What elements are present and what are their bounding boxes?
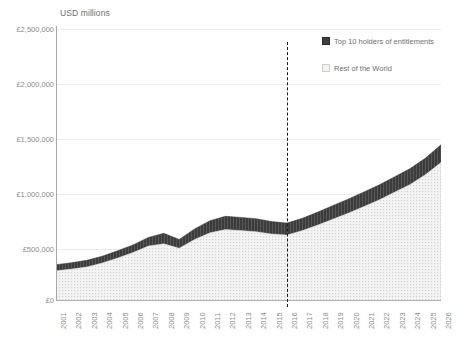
legend: Top 10 holders of entitlements Rest of t… <box>322 36 454 90</box>
x-tick-label: 2011 <box>213 313 222 329</box>
x-tick-label: 2005 <box>121 312 130 329</box>
x-tick-label: 2024 <box>413 312 422 329</box>
x-tick-label: 2019 <box>336 312 345 329</box>
x-tick-label: 2014 <box>259 312 268 329</box>
legend-item-rest-of-world: Rest of the World <box>322 63 454 73</box>
x-tick-label: 2010 <box>198 312 207 329</box>
legend-swatch-dark-icon <box>322 37 330 45</box>
x-tick-label: 2015 <box>275 312 284 329</box>
legend-swatch-light-icon <box>322 64 330 72</box>
x-tick-label: 2017 <box>305 312 314 329</box>
x-tick-label: 2022 <box>382 312 391 329</box>
x-tick-label: 2002 <box>74 312 83 329</box>
x-tick-label: 2009 <box>182 312 191 329</box>
x-tick-label: 2020 <box>352 312 361 329</box>
legend-label: Top 10 holders of entitlements <box>334 37 434 46</box>
x-tick-label: 2012 <box>228 312 237 329</box>
x-tick-label: 2026 <box>444 312 453 329</box>
legend-label: Rest of the World <box>334 64 392 73</box>
x-tick-label: 2008 <box>167 312 176 329</box>
x-tick-label: 2007 <box>151 312 160 329</box>
legend-item-top10-holders: Top 10 holders of entitlements <box>322 36 454 46</box>
x-tick-label: 2013 <box>244 312 253 329</box>
x-tick-label: 2018 <box>321 312 330 329</box>
x-tick-label: 2001 <box>59 312 68 329</box>
x-tick-label: 2025 <box>429 312 438 329</box>
area-chart: USD millions £2,500,000 £2,000,000 £1,50… <box>0 0 459 340</box>
x-tick-label: 2023 <box>398 312 407 329</box>
x-tick-label: 2004 <box>105 312 114 329</box>
x-tick-label: 2016 <box>290 312 299 329</box>
x-tick-label: 2006 <box>136 312 145 329</box>
x-tick-label: 2021 <box>367 312 376 329</box>
x-tick-label: 2003 <box>90 312 99 329</box>
